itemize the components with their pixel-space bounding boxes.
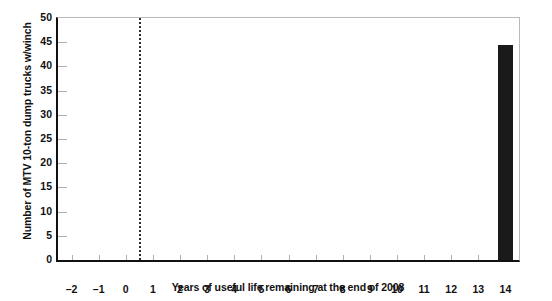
x-tick-mark xyxy=(370,255,371,260)
y-tick-label: 15 xyxy=(4,181,52,191)
y-tick-mark xyxy=(58,91,67,92)
chart-container: Number of MTV 10-ton dump trucks w/winch… xyxy=(0,0,552,301)
x-tick-mark xyxy=(99,255,100,260)
x-tick-mark xyxy=(72,255,73,260)
y-tick-mark xyxy=(58,212,67,213)
y-tick-mark xyxy=(58,66,67,67)
x-tick-mark xyxy=(451,255,452,260)
x-tick-mark xyxy=(153,255,154,260)
plot-inner: –2–101234567891011121314 xyxy=(58,18,519,260)
y-tick-label: 45 xyxy=(4,36,52,46)
reference-line-annotation xyxy=(139,18,141,260)
x-tick-mark xyxy=(207,255,208,260)
y-tick-label: 25 xyxy=(4,133,52,143)
y-tick-mark xyxy=(58,139,67,140)
y-tick-label: 5 xyxy=(4,230,52,240)
x-tick-mark xyxy=(126,255,127,260)
y-tick-label: 20 xyxy=(4,157,52,167)
x-tick-mark xyxy=(397,255,398,260)
y-tick-label: 30 xyxy=(4,109,52,119)
x-tick-mark xyxy=(343,255,344,260)
x-tick-mark xyxy=(261,255,262,260)
y-tick-mark xyxy=(58,163,67,164)
x-tick-mark xyxy=(478,255,479,260)
y-tick-label: 40 xyxy=(4,60,52,70)
bar xyxy=(498,45,513,260)
x-tick-mark xyxy=(424,255,425,260)
y-tick-mark xyxy=(58,115,67,116)
y-tick-mark xyxy=(58,42,67,43)
y-tick-label: 10 xyxy=(4,206,52,216)
y-tick-mark xyxy=(58,236,67,237)
x-tick-mark xyxy=(289,255,290,260)
y-tick-label: 35 xyxy=(4,85,52,95)
x-tick-mark xyxy=(234,255,235,260)
y-tick-mark xyxy=(58,187,67,188)
x-tick-mark xyxy=(316,255,317,260)
y-tick-label: 0 xyxy=(4,254,52,264)
x-tick-mark xyxy=(180,255,181,260)
plot-area: –2–101234567891011121314 xyxy=(56,17,520,262)
x-axis-title: Years of useful life remaining at the en… xyxy=(56,281,520,293)
y-tick-label: 50 xyxy=(4,12,52,22)
